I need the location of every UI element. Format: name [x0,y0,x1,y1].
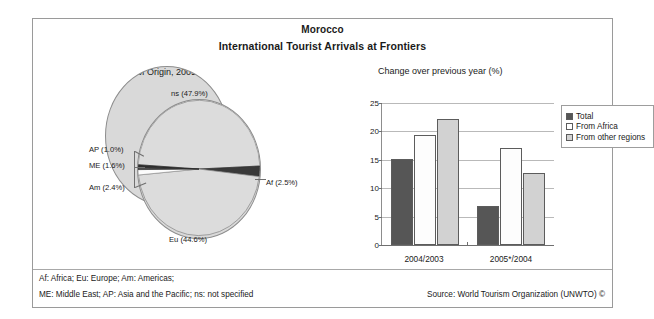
legend-label-from-africa: From Africa [576,122,618,131]
legend-swatch-from-africa [566,123,573,130]
xtick-separator [467,242,468,246]
ytick-mark-0 [379,245,382,246]
bar-group-2005-2004 [468,103,554,245]
page-title: Morocco [33,24,612,35]
legend-item-total: Total [566,112,650,121]
plot-area: 25 20 15 10 5 [381,103,554,246]
ytick-label-10: 10 [370,184,379,193]
ytick-label-25: 25 [370,99,379,108]
bar-chart-title: Change over previous year (%) [378,66,503,76]
pie-label-ap: AP (1.0%) [89,145,123,154]
bar-group-2004-2003 [382,103,468,245]
bar-total-2004-2003 [391,159,413,245]
pie-label-eu: Eu (44.6%) [169,235,207,244]
legend-swatch-from-other-regions [566,134,573,141]
bar-total-2005-2004 [477,206,499,245]
leader-line-ap-vert [134,151,135,188]
footer-note-line-1: Af: Africa; Eu: Europe; Am: Americas; [39,274,174,283]
bar-chart: 25 20 15 10 5 [359,97,554,272]
legend-label-from-other-regions: From other regions [576,133,645,142]
footer-source: Source: World Tourism Organization (UNWT… [427,290,605,299]
xtick-label-2004-2003: 2004/2003 [404,254,443,264]
ytick-label-20: 20 [370,127,379,136]
legend-label-total: Total [576,112,593,121]
bar-africa-2004-2003 [414,135,436,245]
pie-label-af: Af (2.5%) [266,178,298,187]
bar-africa-2005-2004 [500,148,522,245]
bar-chart-legend: Total From Africa From other regions [561,105,654,148]
pie-label-me: ME (1.6%) [89,161,125,170]
xtick-label-2005-2004: 2005*/2004 [490,254,532,264]
gridline-0: 0 [382,245,554,246]
leader-line-af [255,179,266,180]
legend-item-from-other-regions: From other regions [566,133,650,142]
page-subtitle: International Tourist Arrivals at Fronti… [33,40,612,52]
bar-other-2005-2004 [523,173,545,245]
legend-item-from-africa: From Africa [566,122,650,131]
ytick-label-0: 0 [375,241,379,250]
bar-groups [382,103,554,245]
pie-slices [138,100,260,238]
leader-line-me [135,167,145,168]
bar-other-2004-2003 [437,119,459,245]
pie-chart: ns (47.9%) Eu (44.6%) Af (2.5%) AP (1.0%… [119,95,279,245]
pie-label-am: Am (2.4%) [89,183,125,192]
footer-divider [33,269,612,270]
ytick-label-5: 5 [375,212,379,221]
ytick-label-15: 15 [370,155,379,164]
legend-swatch-total [566,113,573,120]
pie-label-ns: ns (47.9%) [171,89,208,98]
footer-note-line-2: ME: Middle East; AP: Asia and the Pacifi… [39,290,253,299]
pie-graphic [137,99,261,239]
chart-card: Morocco International Tourist Arrivals a… [32,18,613,308]
